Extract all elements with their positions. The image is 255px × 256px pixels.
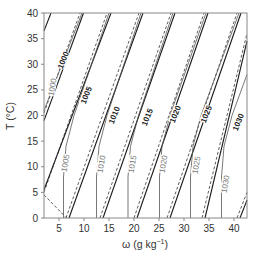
x-tick-label: 20 bbox=[128, 223, 140, 234]
x-tick-label: 25 bbox=[153, 223, 165, 234]
x-tick-label: 15 bbox=[103, 223, 115, 234]
x-tick-label: 40 bbox=[228, 223, 240, 234]
grey-isoline-labels: 1000100510101015102010251030 bbox=[46, 77, 231, 194]
y-tick-label: 20 bbox=[27, 110, 39, 121]
y-tick-label: 5 bbox=[32, 187, 38, 198]
x-tick-label: 35 bbox=[203, 223, 215, 234]
isoline-chart: 510152025303540 0510152025303540 1000100… bbox=[0, 0, 255, 256]
y-axis-title: T (°C) bbox=[4, 102, 16, 130]
isoline-label: 1010 bbox=[96, 154, 108, 174]
isoline-label: 1020 bbox=[168, 104, 183, 124]
isoline bbox=[69, 13, 143, 218]
isoline-label: 1030 bbox=[231, 112, 246, 132]
isoline-label: 1015 bbox=[127, 154, 139, 174]
x-tick-label: 10 bbox=[78, 223, 90, 234]
isoline-label: 1000 bbox=[56, 50, 71, 70]
isoline-label: 1005 bbox=[60, 153, 72, 173]
isoline bbox=[160, 13, 207, 218]
y-tick-label: 35 bbox=[27, 33, 39, 44]
isoline bbox=[240, 200, 247, 218]
y-tick-label: 0 bbox=[32, 213, 38, 224]
isoline-label: 1030 bbox=[220, 174, 232, 194]
y-tick-label: 30 bbox=[27, 59, 39, 70]
isoline-label: 1015 bbox=[140, 107, 155, 127]
x-tick-label: 30 bbox=[178, 223, 190, 234]
isoline bbox=[44, 13, 51, 31]
x-tick-label: 5 bbox=[56, 223, 62, 234]
y-tick-label: 10 bbox=[27, 161, 39, 172]
isoline-label: 1005 bbox=[79, 85, 94, 105]
y-tick-label: 25 bbox=[27, 84, 39, 95]
y-tick-label: 40 bbox=[27, 8, 39, 19]
isoline-label: 1020 bbox=[158, 154, 170, 174]
bold-isoline-labels: 1000100510101015102010251030 bbox=[56, 50, 246, 132]
isoline-label: 1000 bbox=[47, 77, 59, 97]
x-axis: 510152025303540 bbox=[56, 218, 240, 234]
isoline-label: 1025 bbox=[199, 104, 214, 124]
isoline-label: 1025 bbox=[191, 155, 203, 175]
x-axis-title: ω (g kg−1) bbox=[122, 238, 168, 250]
y-axis: 0510152025303540 bbox=[27, 8, 44, 224]
y-tick-label: 15 bbox=[27, 136, 39, 147]
